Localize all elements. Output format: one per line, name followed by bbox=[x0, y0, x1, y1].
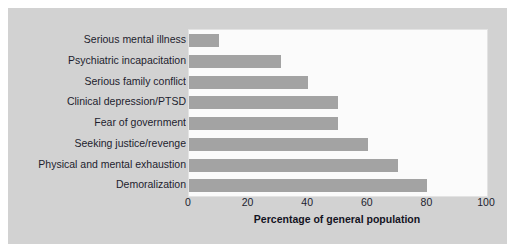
x-axis-tick-label: 60 bbox=[361, 196, 373, 208]
figure: Serious mental illness Psychiatric incap… bbox=[0, 0, 515, 252]
bar-row bbox=[189, 175, 487, 196]
x-axis-tick-label: 0 bbox=[185, 196, 191, 208]
bar-row bbox=[189, 30, 487, 51]
bar-row bbox=[189, 72, 487, 93]
x-axis-title: Percentage of general population bbox=[188, 213, 486, 225]
bar-row bbox=[189, 113, 487, 134]
bar-row bbox=[189, 155, 487, 176]
x-axis-tick-label: 80 bbox=[421, 196, 433, 208]
bar bbox=[189, 96, 338, 109]
y-axis-tick-label: Demoralization bbox=[22, 174, 186, 195]
plot-area bbox=[188, 29, 488, 197]
bar bbox=[189, 76, 308, 89]
bar bbox=[189, 159, 398, 172]
y-axis-tick-label: Physical and mental exhaustion bbox=[22, 154, 186, 175]
bar bbox=[189, 34, 219, 47]
bar-row bbox=[189, 92, 487, 113]
x-axis: 0 20 40 60 80 100 bbox=[188, 196, 488, 214]
x-axis-tick-label: 40 bbox=[301, 196, 313, 208]
bar bbox=[189, 117, 338, 130]
y-axis-tick-label: Serious mental illness bbox=[22, 29, 186, 50]
bar bbox=[189, 138, 368, 151]
x-axis-tick-label: 100 bbox=[477, 196, 495, 208]
bar-row bbox=[189, 51, 487, 72]
chart-panel: Serious mental illness Psychiatric incap… bbox=[8, 8, 507, 244]
y-axis-tick-label: Serious family conflict bbox=[22, 71, 186, 92]
x-axis-tick-label: 20 bbox=[242, 196, 254, 208]
y-axis-tick-label: Psychiatric incapacitation bbox=[22, 50, 186, 71]
bar-row bbox=[189, 134, 487, 155]
y-axis-tick-label: Seeking justice/revenge bbox=[22, 133, 186, 154]
bar bbox=[189, 179, 427, 192]
y-axis-tick-label: Clinical depression/PTSD bbox=[22, 91, 186, 112]
bar bbox=[189, 55, 281, 68]
y-axis-category-labels: Serious mental illness Psychiatric incap… bbox=[22, 29, 186, 195]
y-axis-tick-label: Fear of government bbox=[22, 112, 186, 133]
